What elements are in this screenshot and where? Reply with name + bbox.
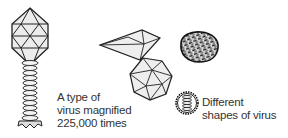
caption-right-line-2: shapes of virus: [202, 109, 276, 122]
bacteriophage-tail-icon: [16, 60, 44, 130]
bacteriophage-head-icon: [8, 6, 52, 64]
caption-left-line-1: A type of: [57, 91, 131, 104]
caption-right-line-1: Different: [202, 96, 276, 109]
coiled-virus-icon: [174, 90, 200, 116]
icosahedral-virus-icon: [128, 56, 174, 102]
caption-left-line-2: virus magnified: [57, 104, 131, 117]
caption-left-line-3: 225,000 times: [57, 117, 131, 130]
textured-virus-icon: [177, 30, 221, 64]
caption-left: A type of virus magnified 225,000 times: [57, 91, 131, 130]
caption-right: Different shapes of virus: [202, 96, 276, 122]
